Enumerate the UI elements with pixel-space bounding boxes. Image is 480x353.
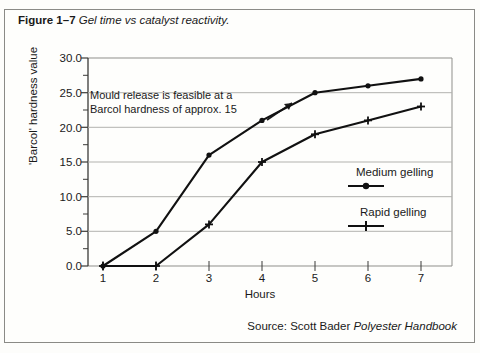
- legend-label-rapid-gelling: Rapid gelling: [360, 206, 427, 218]
- chart-annotation: Mould release is feasible at a Barcol ha…: [90, 88, 237, 116]
- y-axis-major-ticks: [81, 58, 88, 266]
- figure-page: Figure 1–7 Gel time vs catalyst reactivi…: [0, 0, 480, 353]
- chart-annotation-line-2: Barcol hardness of approx. 15: [90, 102, 237, 116]
- source-prefix: Source: Scott Bader: [247, 320, 353, 332]
- chart-annotation-line-1: Mould release is feasible at a: [90, 88, 237, 102]
- legend-marker-medium-gelling: [348, 183, 384, 189]
- legend-marker-rapid-gelling: [348, 221, 384, 231]
- source-credit: Source: Scott Bader Polyester Handbook: [0, 320, 457, 332]
- legend-label-medium-gelling: Medium gelling: [356, 166, 433, 178]
- source-publication: Polyester Handbook: [353, 320, 457, 332]
- chart-area: 'Barcol' hardness value Hours 30.0 25.0 …: [0, 0, 480, 353]
